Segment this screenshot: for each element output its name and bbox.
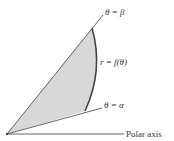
origin-point [6,133,8,135]
label-theta-alpha: θ = α [104,100,124,110]
label-polar-axis: Polar axis [126,129,162,139]
label-theta-beta: θ = β [105,7,125,17]
polar-diagram: θ = β r = f(θ) θ = α Polar axis [0,0,174,141]
label-r-f-theta: r = f(θ) [100,57,127,67]
shaded-region [7,28,97,134]
